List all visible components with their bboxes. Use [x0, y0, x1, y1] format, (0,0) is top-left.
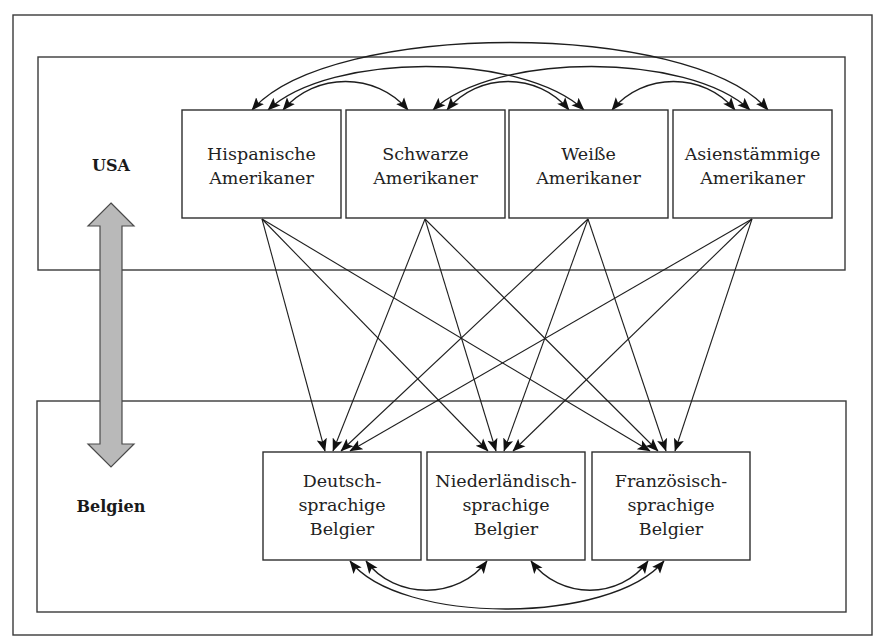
edge-white-dutch [504, 219, 588, 451]
node-label-line: Französisch- [615, 471, 728, 491]
node-label-line: sprachige [298, 495, 385, 515]
edge-asian-dutch [513, 219, 752, 451]
usa-to-belgium-edges [262, 219, 752, 451]
node-label-line: Belgier [639, 519, 704, 539]
belgium-group-french: Französisch- sprachige Belgier [592, 452, 750, 560]
belgium-group-dutch: Niederländisch- sprachige Belgier [427, 452, 585, 560]
node-label-line: Schwarze [382, 144, 468, 164]
node-label-line: Weiße [561, 144, 616, 164]
node-label-line: sprachige [462, 495, 549, 515]
belgium-group-german: Deutsch- sprachige Belgier [263, 452, 421, 560]
arc-black-asian [433, 67, 750, 111]
arc-hispanic-black [283, 82, 408, 111]
node-label-line: Amerikaner [208, 168, 314, 188]
usa-region-label: USA [92, 156, 131, 175]
node-label-line: Amerikaner [372, 168, 478, 188]
node-box [673, 110, 832, 218]
belgium-intergroup-arcs [350, 561, 664, 609]
edge-white-french [588, 219, 666, 451]
node-box [346, 110, 505, 218]
node-label-line: Hispanische [207, 144, 316, 164]
usa-group-white: Weiße Amerikaner [509, 110, 668, 218]
node-label-line: sprachige [627, 495, 714, 515]
arc-white-asian [612, 82, 735, 111]
node-label-line: Deutsch- [303, 471, 382, 491]
node-box [182, 110, 341, 218]
node-label-line: Belgier [474, 519, 539, 539]
usa-group-asian: Asienstämmige Amerikaner [673, 110, 832, 218]
double-arrow-icon [88, 203, 134, 467]
edge-hispanic-french [262, 219, 650, 451]
intergroup-relations-diagram: Hispanische Amerikaner Schwarze Amerikan… [0, 0, 886, 643]
node-label-line: Amerikaner [535, 168, 641, 188]
usa-intergroup-arcs [252, 43, 768, 111]
node-label-line: Amerikaner [699, 168, 805, 188]
usa-group-black: Schwarze Amerikaner [346, 110, 505, 218]
edge-hispanic-dutch [262, 219, 488, 451]
arc-hispanic-white [268, 67, 584, 111]
edge-hispanic-german [262, 219, 325, 451]
belgium-region-label: Belgien [77, 497, 146, 516]
arc-black-white [447, 82, 569, 111]
edge-asian-french [675, 219, 752, 451]
node-label-line: Asienstämmige [684, 144, 821, 164]
usa-group-hispanic: Hispanische Amerikaner [182, 110, 341, 218]
node-box [509, 110, 668, 218]
node-label-line: Belgier [310, 519, 375, 539]
node-label-line: Niederländisch- [435, 471, 576, 491]
